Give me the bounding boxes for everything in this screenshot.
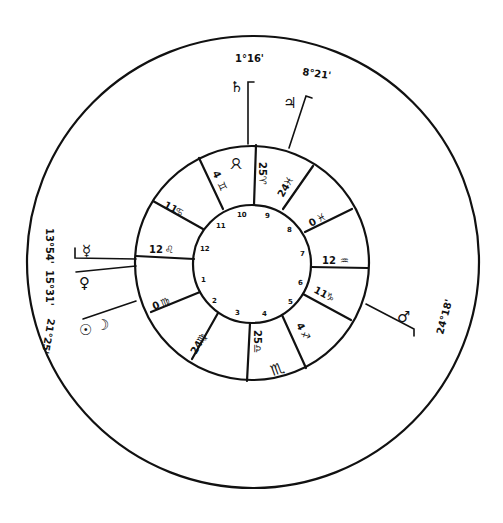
house-number-7: 7 bbox=[300, 250, 305, 258]
house-number-12: 12 bbox=[200, 245, 210, 253]
libra-icon: ♎ bbox=[252, 344, 263, 353]
virgo-icon-2: ♍ bbox=[159, 295, 171, 309]
mercury-degree: 13°54' bbox=[44, 228, 55, 264]
house-numbers: 1 2 3 4 5 6 7 8 9 10 11 12 bbox=[200, 211, 305, 318]
jupiter-icon: ♃ bbox=[283, 94, 296, 112]
aquarius-icon: ♒ bbox=[340, 255, 349, 266]
jupiter-degree: 8°21' bbox=[302, 66, 332, 81]
cusp-degree-libra: 25 bbox=[252, 330, 263, 344]
leo-icon: ♌ bbox=[165, 244, 174, 255]
outer-circle bbox=[27, 36, 479, 488]
moon-icon: ☽ bbox=[96, 316, 109, 334]
house-number-11: 11 bbox=[216, 222, 226, 230]
house-number-3: 3 bbox=[235, 309, 240, 317]
sagittarius-icon: ♐ bbox=[298, 329, 312, 342]
house-number-2: 2 bbox=[212, 297, 217, 305]
mars-icon: ♂ bbox=[397, 308, 410, 326]
saturn-icon: ♄ bbox=[230, 78, 243, 96]
house-number-10: 10 bbox=[237, 211, 247, 219]
mercury-icon: ☿ bbox=[82, 242, 91, 260]
scorpio-icon: ♏ bbox=[268, 358, 287, 380]
house-number-1: 1 bbox=[201, 276, 206, 284]
house-number-9: 9 bbox=[265, 212, 270, 220]
house-number-8: 8 bbox=[287, 226, 292, 234]
cusp-degree-aquarius: 12 bbox=[322, 255, 336, 266]
planet-degrees: 1°16' 8°21' 13°54' 15°31' 21°25' 24°18' bbox=[40, 53, 454, 355]
house-number-4: 4 bbox=[262, 310, 267, 318]
gemini-icon: ♊ bbox=[216, 180, 230, 193]
taurus-icon: ♉ bbox=[229, 154, 242, 172]
natal-chart: 1 2 3 4 5 6 7 8 9 10 11 12 4 ♊ ♉ 25 ♈ 24… bbox=[0, 0, 503, 523]
sun-moon-degree: 21°25' bbox=[40, 318, 57, 355]
cusp-degree-aries: 25 bbox=[257, 162, 268, 176]
cusp-degree-leo: 12 bbox=[149, 244, 163, 255]
house-number-6: 6 bbox=[298, 279, 303, 287]
planet-glyphs: ♄ ♃ ☿ ♀ ☉ ☽ ♂ bbox=[79, 78, 410, 339]
aries-icon: ♈ bbox=[257, 176, 268, 185]
venus-icon: ♀ bbox=[79, 274, 90, 292]
sun-icon: ☉ bbox=[79, 321, 92, 339]
cusp-degree-gemini: 4 bbox=[210, 169, 223, 180]
house-number-5: 5 bbox=[288, 298, 293, 306]
house-ring-inner bbox=[193, 205, 311, 323]
mars-degree: 24°18' bbox=[434, 298, 454, 336]
venus-degree: 15°31' bbox=[44, 270, 55, 306]
saturn-degree: 1°16' bbox=[235, 53, 264, 64]
